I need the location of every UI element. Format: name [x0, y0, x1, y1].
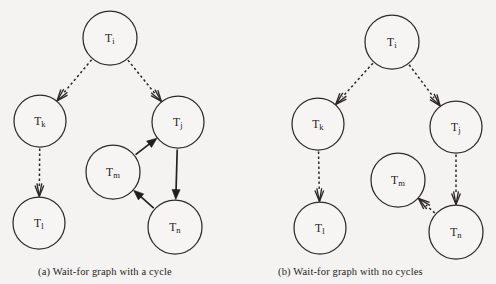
nodes-layer: TiTkTjTmTlTnTiTkTjTmTlTn: [13, 11, 483, 259]
panel-a-caption: (a) Wait-for graph with a cycle: [38, 266, 172, 277]
graph-canvas: TiTkTjTmTlTnTiTkTjTmTlTn: [0, 0, 496, 284]
edge-a-Ti-to-Tj: [128, 60, 155, 93]
node-a-tj[interactable]: Tj: [152, 96, 204, 148]
node-b-tk[interactable]: Tk: [292, 98, 344, 150]
node-b-tn[interactable]: Tn: [429, 205, 483, 259]
node-a-tm[interactable]: Tm: [86, 145, 140, 199]
node-a-tn[interactable]: Tn: [148, 200, 202, 254]
edge-b-Ti-to-Tj: [409, 65, 434, 98]
arrowhead-icon-a-Tj-Tn: [172, 189, 180, 199]
edge-a-Tj-to-Tn: [176, 149, 177, 190]
node-a-tk[interactable]: Tk: [14, 95, 66, 147]
node-b-tm[interactable]: Tm: [371, 153, 425, 207]
arrowhead-icon-a-Tm-Tj: [147, 138, 157, 147]
node-a-ti[interactable]: Ti: [83, 11, 137, 65]
edge-b-Tn-to-Tm: [426, 205, 435, 213]
edge-a-Tm-to-Tj: [136, 144, 150, 155]
panel-b-caption: (b) Wait-for graph with no cycles: [278, 266, 423, 277]
wait-for-graph-figure: TiTkTjTmTlTnTiTkTjTmTlTn (a) Wait-for gr…: [0, 0, 496, 284]
arrowhead-icon-b-Tj-Tn-inner: [454, 191, 459, 204]
node-b-ti[interactable]: Ti: [365, 15, 419, 69]
node-b-tl[interactable]: Tl: [294, 202, 346, 254]
node-b-tj[interactable]: Tj: [430, 101, 482, 153]
edge-b-Ti-to-Tk: [342, 63, 372, 97]
edge-a-Tn-to-Tm: [140, 196, 153, 208]
node-a-tl[interactable]: Tl: [13, 197, 65, 249]
edge-a-Ti-to-Tk: [64, 60, 92, 93]
edge-b-Tk-to-Tl: [319, 151, 320, 191]
